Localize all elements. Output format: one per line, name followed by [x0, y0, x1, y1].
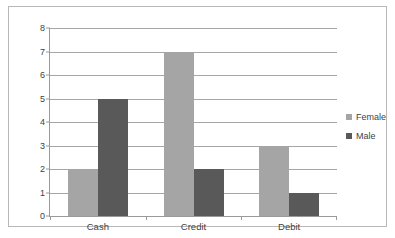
gridline-7 — [50, 52, 337, 53]
y-tick-label-5: 5 — [19, 94, 45, 103]
legend-item-male[interactable]: Male — [346, 131, 392, 141]
y-tick-mark-1 — [46, 192, 50, 193]
gridline-4 — [50, 122, 337, 123]
bar-debit-male — [289, 193, 319, 217]
bar-cash-male — [98, 99, 128, 217]
y-tick-mark-0 — [46, 216, 50, 217]
y-tick-label-4: 4 — [19, 118, 45, 127]
gridline-8 — [50, 28, 337, 29]
y-tick-mark-8 — [46, 28, 50, 29]
x-label-credit: Credit — [181, 220, 206, 234]
y-tick-label-2: 2 — [19, 165, 45, 174]
chart-frame: 012345678 CashCreditDebit FemaleMale — [8, 6, 387, 227]
legend-swatch-female — [346, 114, 352, 120]
legend-swatch-male — [346, 133, 352, 139]
x-label-cash: Cash — [87, 220, 109, 234]
bar-credit-male — [194, 169, 224, 216]
y-tick-label-0: 0 — [19, 212, 45, 221]
y-tick-mark-4 — [46, 122, 50, 123]
y-tick-label-3: 3 — [19, 141, 45, 150]
x-axis-category-labels: CashCreditDebit — [50, 220, 337, 236]
gridline-6 — [50, 75, 337, 76]
y-tick-label-1: 1 — [19, 188, 45, 197]
y-tick-label-7: 7 — [19, 47, 45, 56]
y-tick-mark-3 — [46, 145, 50, 146]
legend-label-male: Male — [356, 132, 376, 141]
plot-area — [50, 28, 337, 216]
chart-legend: FemaleMale — [346, 112, 392, 150]
bar-cash-female — [68, 169, 98, 216]
gridline-5 — [50, 99, 337, 100]
x-label-debit: Debit — [278, 220, 300, 234]
bar-credit-female — [164, 52, 194, 217]
bar-debit-female — [259, 146, 289, 217]
legend-label-female: Female — [356, 113, 386, 122]
gridline-3 — [50, 146, 337, 147]
y-tick-mark-7 — [46, 51, 50, 52]
y-tick-label-8: 8 — [19, 24, 45, 33]
y-tick-mark-6 — [46, 75, 50, 76]
legend-item-female[interactable]: Female — [346, 112, 392, 122]
y-tick-mark-5 — [46, 98, 50, 99]
y-tick-mark-2 — [46, 169, 50, 170]
y-tick-label-6: 6 — [19, 71, 45, 80]
y-axis-tick-labels: 012345678 — [9, 28, 45, 216]
